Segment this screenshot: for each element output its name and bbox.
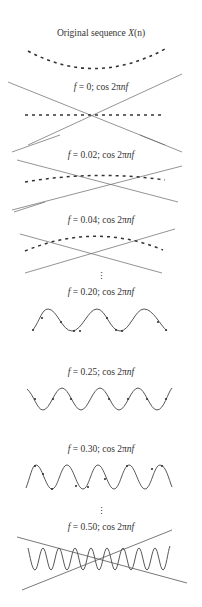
frequency-decomposition-diagram: Original sequence X(n) f = 0; cos 2πnf f… <box>0 0 202 607</box>
crossing-line <box>28 74 182 145</box>
crossing-line <box>12 166 182 210</box>
diagram-graphics <box>0 0 202 607</box>
sample-points-f030 <box>34 465 163 490</box>
crossing-line <box>10 146 182 163</box>
crossing-line <box>140 135 182 152</box>
sequence-f030 <box>26 465 172 489</box>
crossing-line <box>25 229 175 273</box>
sample-points-f020 <box>32 317 167 332</box>
sequence-f002 <box>25 175 165 182</box>
crossing-line <box>14 202 45 212</box>
crossing-line <box>22 530 172 590</box>
sequence-f020 <box>33 309 167 331</box>
sequence-f025 <box>27 388 172 410</box>
sequence-f050 <box>28 546 170 570</box>
crossing-line <box>17 160 178 202</box>
sample-points-f025 <box>34 398 167 400</box>
original-sequence-curve <box>28 49 165 69</box>
crossing-line <box>17 537 187 583</box>
